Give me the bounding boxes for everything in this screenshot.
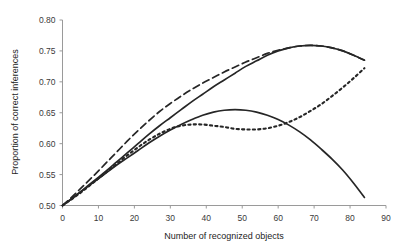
- y-tick-label: 0.50: [39, 201, 56, 211]
- y-tick-label: 0.70: [39, 77, 56, 87]
- x-tick-label: 10: [94, 213, 104, 223]
- curve-dashed: [63, 45, 365, 205]
- x-axis-ticks: 0102030405060708090: [60, 206, 391, 223]
- x-tick-label: 70: [309, 213, 319, 223]
- plot-area: 0.500.550.600.650.700.750.80 01020304050…: [39, 15, 391, 223]
- y-tick-label: 0.80: [39, 15, 56, 25]
- chart-figure: 0.500.550.600.650.700.750.80 01020304050…: [0, 0, 407, 250]
- x-tick-label: 30: [166, 213, 176, 223]
- x-tick-label: 50: [237, 213, 247, 223]
- y-tick-label: 0.65: [39, 108, 56, 118]
- curve-upper-solid: [63, 45, 365, 205]
- y-axis-title: Proportion of correct inferences: [10, 49, 20, 175]
- y-tick-label: 0.60: [39, 139, 56, 149]
- y-tick-label: 0.55: [39, 170, 56, 180]
- x-tick-label: 0: [60, 213, 65, 223]
- x-tick-label: 90: [381, 213, 391, 223]
- curve-dotted: [63, 68, 365, 205]
- x-tick-label: 40: [202, 213, 212, 223]
- curve-lower-solid: [63, 110, 365, 206]
- x-tick-label: 80: [345, 213, 355, 223]
- x-tick-label: 20: [130, 213, 140, 223]
- data-curves: [63, 45, 365, 205]
- x-axis-title: Number of recognized objects: [164, 231, 284, 241]
- x-tick-label: 60: [273, 213, 283, 223]
- y-tick-label: 0.75: [39, 46, 56, 56]
- y-axis-ticks: 0.500.550.600.650.700.750.80: [39, 15, 63, 211]
